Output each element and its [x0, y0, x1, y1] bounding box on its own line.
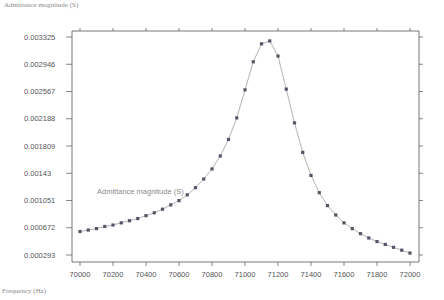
- data-point-marker: [392, 246, 395, 249]
- data-series: [78, 39, 411, 254]
- data-point-marker: [136, 217, 139, 220]
- data-point-marker: [103, 225, 106, 228]
- data-point-marker: [78, 230, 81, 233]
- x-tick-label: 70600: [169, 270, 190, 279]
- data-point-marker: [375, 240, 378, 243]
- y-tick-label: 0.001051: [24, 196, 55, 205]
- y-tick-label: 0.00143: [24, 169, 51, 178]
- data-point-marker: [235, 116, 238, 119]
- x-tick-label: 72000: [400, 270, 421, 279]
- data-point-marker: [120, 221, 123, 224]
- y-tick-label: 0.000672: [24, 223, 55, 232]
- x-tick-label: 71600: [334, 270, 355, 279]
- x-tick-label: 71000: [235, 270, 256, 279]
- data-point-marker: [326, 204, 329, 207]
- series-label: Admittance magnitude (S): [97, 187, 184, 196]
- data-point-marker: [128, 219, 131, 222]
- data-point-marker: [293, 121, 296, 124]
- data-point-marker: [169, 203, 172, 206]
- y-tick-label: 0.002188: [24, 114, 55, 123]
- data-point-marker: [95, 227, 98, 230]
- x-tick-label: 71400: [301, 270, 322, 279]
- y-tick-label: 0.002567: [24, 87, 55, 96]
- data-point-marker: [177, 199, 180, 202]
- x-tick-label: 70800: [202, 270, 223, 279]
- data-point-marker: [309, 174, 312, 177]
- data-point-marker: [400, 249, 403, 252]
- data-point-marker: [243, 88, 246, 91]
- data-point-marker: [153, 211, 156, 214]
- y-tick-label: 0.001809: [24, 142, 55, 151]
- data-point-marker: [260, 42, 263, 45]
- data-point-marker: [408, 251, 411, 254]
- y-tick-label: 0.003325: [24, 33, 55, 42]
- x-axis-ticks: 7000070200704007060070800710007120071400…: [70, 28, 421, 279]
- data-point-marker: [252, 60, 255, 63]
- x-tick-label: 70000: [70, 270, 91, 279]
- data-point-marker: [359, 232, 362, 235]
- x-tick-label: 70400: [136, 270, 157, 279]
- data-point-marker: [144, 214, 147, 217]
- data-point-marker: [276, 54, 279, 57]
- data-point-marker: [186, 193, 189, 196]
- data-point-marker: [194, 186, 197, 189]
- data-point-marker: [210, 167, 213, 170]
- plot-axes: [72, 31, 419, 262]
- data-point-marker: [87, 228, 90, 231]
- data-point-marker: [219, 154, 222, 157]
- x-tick-label: 71800: [367, 270, 388, 279]
- data-point-marker: [301, 151, 304, 154]
- y-axis-ticks: 0.0033250.0029460.0025670.0021880.001809…: [24, 33, 423, 260]
- data-point-marker: [384, 243, 387, 246]
- y-tick-label: 0.000293: [24, 251, 55, 260]
- data-point-marker: [202, 177, 205, 180]
- data-point-marker: [342, 221, 345, 224]
- data-point-marker: [367, 236, 370, 239]
- y-tick-label: 0.002946: [24, 60, 55, 69]
- data-point-marker: [285, 88, 288, 91]
- data-point-marker: [227, 138, 230, 141]
- admittance-chart: 0.0033250.0029460.0025670.0021880.001809…: [0, 0, 444, 300]
- x-tick-label: 70200: [103, 270, 124, 279]
- data-point-marker: [334, 213, 337, 216]
- x-tick-label: 71200: [268, 270, 289, 279]
- data-point-marker: [318, 191, 321, 194]
- data-point-marker: [161, 208, 164, 211]
- data-point-marker: [268, 39, 271, 42]
- data-point-marker: [111, 223, 114, 226]
- data-point-marker: [351, 227, 354, 230]
